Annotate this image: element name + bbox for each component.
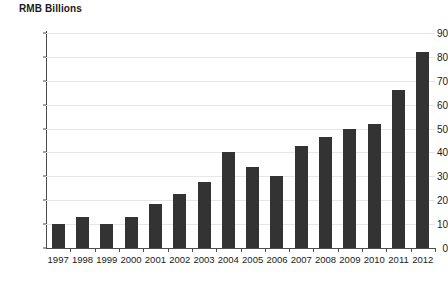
bar <box>246 167 259 248</box>
bar <box>416 52 429 248</box>
bar <box>222 152 235 248</box>
x-axis-tick-mark <box>143 248 144 252</box>
x-axis-tick-mark <box>95 248 96 252</box>
x-axis-tick-mark <box>386 248 387 252</box>
x-axis-tick-label: 2002 <box>169 254 190 265</box>
bars-layer <box>46 33 435 248</box>
bar <box>198 182 211 248</box>
x-axis-tick-label: 2001 <box>145 254 166 265</box>
x-axis-tick-mark <box>338 248 339 252</box>
x-axis-tick-label: 2008 <box>315 254 336 265</box>
plot-area <box>46 33 435 248</box>
x-axis-tick-mark <box>192 248 193 252</box>
x-axis-tick-mark <box>119 248 120 252</box>
bar <box>319 137 332 248</box>
x-axis-tick-label: 2000 <box>121 254 142 265</box>
x-axis-tick-label: 1998 <box>72 254 93 265</box>
x-axis-tick-mark <box>241 248 242 252</box>
x-axis-tick-label: 2003 <box>193 254 214 265</box>
bar <box>295 146 308 248</box>
x-axis-tick-mark <box>435 248 436 252</box>
bar <box>76 217 89 248</box>
x-axis-tick-label: 2009 <box>339 254 360 265</box>
bar-chart: RMB Billions 0102030405060708090 1997199… <box>0 0 448 282</box>
x-axis-tick-label: 1997 <box>48 254 69 265</box>
x-axis-tick-mark <box>265 248 266 252</box>
bar <box>368 124 381 248</box>
x-axis-tick-mark <box>289 248 290 252</box>
bar <box>149 204 162 248</box>
x-axis-tick-label: 2011 <box>388 254 408 265</box>
x-axis-tick-label: 2006 <box>266 254 287 265</box>
bar <box>52 224 65 248</box>
x-axis-tick-label: 2005 <box>242 254 263 265</box>
bar <box>343 129 356 248</box>
x-axis-tick-mark <box>411 248 412 252</box>
x-axis-tick-mark <box>362 248 363 252</box>
x-axis-tick-mark <box>168 248 169 252</box>
x-axis-tick-mark <box>216 248 217 252</box>
x-axis-tick-label: 2010 <box>364 254 385 265</box>
x-axis-tick-label: 2012 <box>412 254 433 265</box>
x-axis-tick-label: 2004 <box>218 254 239 265</box>
bar <box>125 217 138 248</box>
bar <box>100 224 113 248</box>
x-axis-tick-label: 2007 <box>291 254 312 265</box>
chart-title: RMB Billions <box>19 3 82 14</box>
x-axis-tick-label: 1999 <box>96 254 117 265</box>
x-axis-tick-mark <box>313 248 314 252</box>
bar <box>392 90 405 248</box>
x-axis-tick-mark <box>70 248 71 252</box>
bar <box>270 176 283 248</box>
bar <box>173 194 186 248</box>
